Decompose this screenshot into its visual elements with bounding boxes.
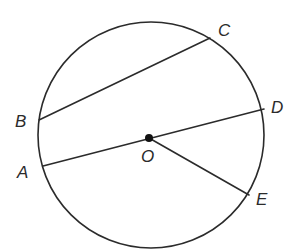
radius-oe (149, 138, 249, 195)
label-c: C (218, 21, 231, 40)
center-point-o (145, 134, 153, 142)
label-a: A (16, 163, 28, 182)
label-b: B (15, 112, 26, 131)
label-e: E (256, 190, 268, 209)
label-o: O (141, 147, 154, 166)
circle-diagram: A B C D E O (0, 0, 305, 249)
chord-bc (39, 38, 210, 120)
label-d: D (271, 98, 283, 117)
